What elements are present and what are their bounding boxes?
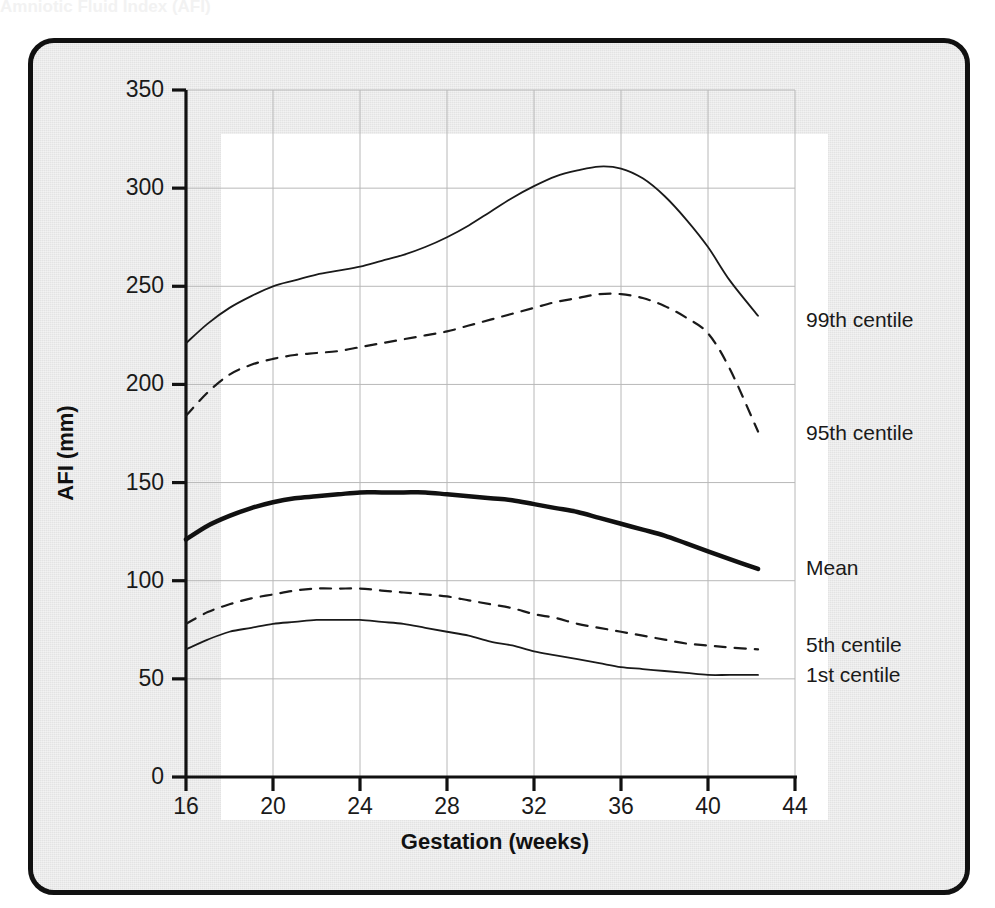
- x-tick-label: 28: [417, 793, 477, 820]
- y-axis-title: AFI (mm): [53, 383, 79, 523]
- x-tick-label: 40: [678, 793, 738, 820]
- x-tick-label: 16: [156, 793, 216, 820]
- x-tick-label: 36: [591, 793, 651, 820]
- tick-marks: [172, 90, 795, 791]
- series-line-mean: [186, 492, 758, 569]
- x-tick-label: 32: [504, 793, 564, 820]
- series-annotation: 5th centile: [806, 633, 902, 657]
- figure-page: Amniotic Fluid Index (AFI) 0501001502002…: [0, 0, 995, 908]
- series-annotation: 95th centile: [806, 421, 913, 445]
- x-axis-title: Gestation (weeks): [305, 829, 685, 855]
- series-annotation: Mean: [806, 556, 859, 580]
- y-tick-label: 50: [104, 665, 164, 692]
- series-line-95th-centile: [186, 294, 758, 432]
- y-tick-label: 100: [104, 567, 164, 594]
- y-tick-label: 150: [104, 469, 164, 496]
- y-tick-label: 200: [104, 370, 164, 397]
- series-annotation: 99th centile: [806, 308, 913, 332]
- y-tick-label: 0: [104, 763, 164, 790]
- y-tick-label: 350: [104, 76, 164, 103]
- series-line-99th-centile: [186, 166, 758, 343]
- x-tick-label: 24: [330, 793, 390, 820]
- y-tick-label: 250: [104, 272, 164, 299]
- series-annotation: 1st centile: [806, 663, 901, 687]
- x-tick-label: 44: [765, 793, 825, 820]
- y-tick-label: 300: [104, 174, 164, 201]
- x-tick-label: 20: [243, 793, 303, 820]
- series-line-1st-centile: [186, 620, 758, 675]
- series-line-5th-centile: [186, 588, 758, 649]
- series-paths: [186, 166, 758, 675]
